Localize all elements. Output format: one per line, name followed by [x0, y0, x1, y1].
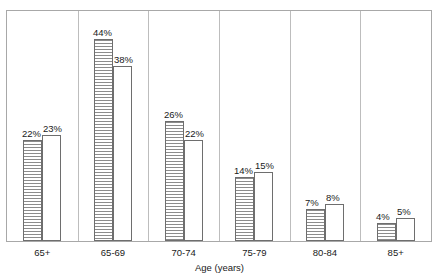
- bar-value-label: 44%: [93, 27, 112, 38]
- bar-series-1: [235, 177, 254, 241]
- group-separator: [78, 11, 79, 241]
- bar-group: 4%5%: [377, 11, 415, 241]
- x-tick-label: 85+: [360, 247, 431, 258]
- bar-chart: 22%23%44%38%26%22%14%15%7%8%4%5% Age (ye…: [0, 0, 439, 276]
- plot-area: 22%23%44%38%26%22%14%15%7%8%4%5%: [7, 11, 431, 241]
- bar-series-1: [23, 140, 42, 241]
- bar-value-label: 7%: [305, 197, 319, 208]
- x-tick-label: 70-74: [148, 247, 219, 258]
- bar-group: 26%22%: [165, 11, 203, 241]
- bar-value-label: 14%: [234, 165, 253, 176]
- bar-series-2: [42, 135, 61, 241]
- x-tick-label: 80-84: [290, 247, 361, 258]
- group-separator: [290, 11, 291, 241]
- bar-value-label: 4%: [376, 211, 390, 222]
- bar-series-2: [113, 66, 132, 241]
- bar-value-label: 15%: [255, 160, 274, 171]
- bar-value-label: 23%: [43, 123, 62, 134]
- bar-series-2: [254, 172, 273, 241]
- bar-value-label: 38%: [114, 54, 133, 65]
- bar-series-1: [165, 121, 184, 241]
- bar-group: 44%38%: [94, 11, 132, 241]
- bar-group: 14%15%: [235, 11, 273, 241]
- bar-series-1: [377, 223, 396, 241]
- bar-group: 7%8%: [306, 11, 344, 241]
- x-tick-label: 65+: [7, 247, 78, 258]
- bar-value-label: 5%: [397, 206, 411, 217]
- group-separator: [148, 11, 149, 241]
- x-axis-title: Age (years): [0, 262, 439, 273]
- group-separator: [219, 11, 220, 241]
- bar-value-label: 22%: [22, 128, 41, 139]
- bar-value-label: 8%: [326, 192, 340, 203]
- bar-series-2: [396, 218, 415, 241]
- bar-value-label: 22%: [185, 128, 204, 139]
- bar-series-2: [184, 140, 203, 241]
- bar-series-2: [325, 204, 344, 241]
- x-tick-label: 65-69: [78, 247, 149, 258]
- x-tick-label: 75-79: [219, 247, 290, 258]
- group-separator: [360, 11, 361, 241]
- bar-series-1: [306, 209, 325, 241]
- bar-value-label: 26%: [164, 109, 183, 120]
- bar-series-1: [94, 39, 113, 241]
- bar-group: 22%23%: [23, 11, 61, 241]
